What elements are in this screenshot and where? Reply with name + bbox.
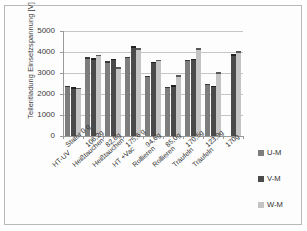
x-axis-tick-mark bbox=[83, 136, 84, 139]
bar-cap bbox=[131, 46, 136, 48]
bar-cap bbox=[156, 60, 161, 62]
bar-cap bbox=[151, 62, 156, 64]
legend-swatch-icon bbox=[258, 202, 264, 208]
bar-vm-4 bbox=[151, 62, 156, 136]
x-axis-tick-mark bbox=[223, 136, 224, 139]
bar-cap bbox=[185, 60, 190, 62]
bar-cap bbox=[191, 59, 196, 61]
y-axis-tick-label: 2000 bbox=[25, 90, 55, 98]
bar-group bbox=[123, 31, 143, 136]
bar-wm-5 bbox=[176, 75, 181, 136]
bar-wm-3 bbox=[136, 48, 141, 136]
bar-wm-1 bbox=[96, 55, 101, 136]
bar-vm-7 bbox=[211, 86, 216, 136]
bar-cap bbox=[145, 76, 150, 78]
y-axis-tick-label: 0 bbox=[25, 132, 55, 140]
bar-vm-6 bbox=[191, 59, 196, 136]
legend-swatch-icon bbox=[258, 150, 264, 156]
bar-group bbox=[163, 31, 183, 136]
x-axis-tick-mark bbox=[143, 136, 144, 139]
bar-cap bbox=[205, 84, 210, 86]
bar-cap bbox=[96, 55, 101, 57]
legend-swatch-icon bbox=[258, 176, 264, 182]
bar-cap bbox=[125, 57, 130, 59]
bar-group bbox=[143, 31, 163, 136]
bar-cap bbox=[111, 59, 116, 61]
bar-cap bbox=[76, 88, 81, 90]
bar-cap bbox=[216, 72, 221, 74]
x-axis-tick-mark bbox=[123, 136, 124, 139]
bar-um-5 bbox=[165, 87, 170, 136]
bar-group bbox=[223, 31, 243, 136]
bar-wm-6 bbox=[196, 48, 201, 136]
bar-cap bbox=[85, 57, 90, 59]
bar-um-0 bbox=[65, 86, 70, 136]
bar-vm-0 bbox=[71, 87, 76, 136]
bar-vm-2 bbox=[111, 59, 116, 136]
bar-vm-1 bbox=[91, 58, 96, 136]
bar-um-6 bbox=[185, 60, 190, 136]
bar-cap bbox=[196, 48, 201, 50]
bar-cap bbox=[136, 48, 141, 50]
bar-um-4 bbox=[145, 76, 150, 136]
bar-um-7 bbox=[205, 84, 210, 136]
bar-vm-8 bbox=[231, 54, 236, 136]
bar-wm-8 bbox=[236, 51, 241, 136]
x-axis-tick-mark bbox=[183, 136, 184, 139]
x-axis-tick-mark bbox=[63, 136, 64, 139]
bar-cap bbox=[105, 61, 110, 63]
x-axis-tick-mark bbox=[163, 136, 164, 139]
x-axis-tick-mark bbox=[103, 136, 104, 139]
bar-group bbox=[183, 31, 203, 136]
bar-um-3 bbox=[125, 57, 130, 136]
y-axis-tick-label: 1000 bbox=[25, 111, 55, 119]
legend-label: W-M bbox=[267, 200, 283, 209]
bar-cap bbox=[71, 87, 76, 89]
bar-wm-7 bbox=[216, 72, 221, 136]
bar-wm-4 bbox=[156, 60, 161, 136]
bar-cap bbox=[236, 51, 241, 53]
bar-vm-5 bbox=[171, 85, 176, 136]
plot-area: 010002000300040005000 bbox=[63, 31, 243, 136]
bar-cap bbox=[231, 54, 236, 56]
bar-cap bbox=[211, 86, 216, 88]
bar-um-2 bbox=[105, 61, 110, 136]
bar-cap bbox=[65, 86, 70, 88]
x-axis-line bbox=[63, 136, 243, 137]
legend-item-um[interactable]: U-M bbox=[258, 148, 300, 157]
bar-cap bbox=[171, 85, 176, 87]
y-axis-tick-label: 5000 bbox=[25, 27, 55, 35]
chart-figure: Teilentladung Einsetzspannung [V] 010002… bbox=[0, 0, 307, 231]
legend-label: V-M bbox=[267, 174, 281, 183]
bar-group bbox=[63, 31, 83, 136]
bar-group bbox=[103, 31, 123, 136]
y-axis-tick-label: 4000 bbox=[25, 48, 55, 56]
bar-cap bbox=[116, 67, 121, 69]
bar-wm-2 bbox=[116, 67, 121, 136]
x-axis-tick-mark bbox=[243, 136, 244, 139]
bar-cap bbox=[176, 75, 181, 77]
bar-vm-3 bbox=[131, 46, 136, 136]
bar-wm-0 bbox=[76, 88, 81, 136]
legend-item-wm[interactable]: W-M bbox=[258, 200, 300, 209]
chart-legend: U-MV-MW-M bbox=[258, 148, 300, 226]
legend-label: U-M bbox=[267, 148, 281, 157]
bar-um-1 bbox=[85, 57, 90, 136]
bar-cap bbox=[91, 58, 96, 60]
bar-cap bbox=[165, 87, 170, 89]
x-axis-tick-mark bbox=[203, 136, 204, 139]
legend-item-vm[interactable]: V-M bbox=[258, 174, 300, 183]
bar-group bbox=[203, 31, 223, 136]
y-axis-tick-label: 3000 bbox=[25, 69, 55, 77]
bar-group bbox=[83, 31, 103, 136]
